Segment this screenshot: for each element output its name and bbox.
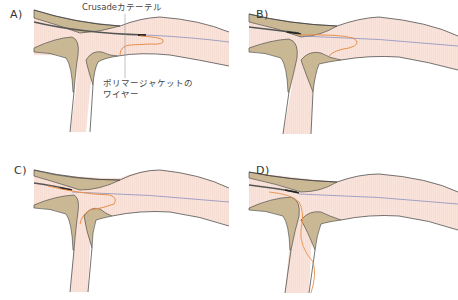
panel-d: D) <box>229 150 458 300</box>
bifurcation-diagram-b <box>229 0 458 150</box>
panel-label: C) <box>14 164 27 177</box>
panel-a: A) Crusadeカテーテル ポリマージャケットの ワイヤー <box>0 0 229 150</box>
panel-label: B) <box>256 8 269 21</box>
annotation-line-1: ポリマージャケットの <box>103 78 193 89</box>
panel-label: D) <box>256 164 270 177</box>
panel-label: A) <box>10 8 23 21</box>
catheter-annotation: Crusadeカテーテル <box>82 2 162 13</box>
bifurcation-diagram-a <box>0 0 229 150</box>
panel-b: B) <box>229 0 458 150</box>
lower-left-plaque <box>34 37 78 92</box>
polymer-wire-annotation: ポリマージャケットの ワイヤー <box>103 78 193 100</box>
bifurcation-diagram-c <box>0 150 229 300</box>
annotation-line-2: ワイヤー <box>103 89 193 100</box>
panel-c: C) <box>0 150 229 300</box>
